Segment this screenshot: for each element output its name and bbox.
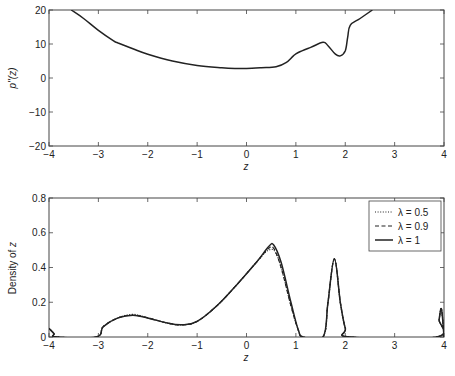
x-tick-label: 0 <box>244 340 250 351</box>
y-tick-label: 0 <box>40 332 46 343</box>
x-tick-label: 1 <box>293 340 299 351</box>
density-curve-solid <box>49 243 444 340</box>
x-tick-label: −1 <box>191 340 203 351</box>
bottom-plot: −4−3−2−101234 0.80.60.40.20 z Density of… <box>7 193 447 364</box>
x-tick-label: 4 <box>441 149 447 160</box>
x-tick-label: −3 <box>93 340 105 351</box>
legend: λ = 0.5λ = 0.9λ = 1 <box>369 201 441 251</box>
y-tick-label: 0.4 <box>32 262 46 273</box>
top-x-ticks: −4−3−2−101234 <box>43 10 447 160</box>
y-tick-label: −20 <box>29 141 46 152</box>
y-tick-label: 0.2 <box>32 297 46 308</box>
x-tick-label: 3 <box>392 340 398 351</box>
x-tick-label: −3 <box>93 149 105 160</box>
bottom-y-axis-label: Density of z <box>7 242 18 294</box>
x-tick-label: −1 <box>191 149 203 160</box>
bottom-y-axis-label-var: z <box>7 242 18 248</box>
bottom-y-axis-label-text: Density of <box>7 247 18 294</box>
top-curve <box>71 10 372 69</box>
top-series <box>71 10 372 69</box>
legend-label: λ = 1 <box>398 235 420 246</box>
density-curve-dotted <box>49 249 444 340</box>
x-tick-label: −2 <box>142 149 154 160</box>
figure: −4−3−2−101234 20100−10−20 z p''(z) −4−3−… <box>0 0 455 376</box>
density-curve-dashed <box>49 246 444 340</box>
x-tick-label: 2 <box>342 149 348 160</box>
top-y-ticks: 20100−10−20 <box>29 5 444 152</box>
y-tick-label: 10 <box>35 39 47 50</box>
legend-label: λ = 0.9 <box>398 221 429 232</box>
x-tick-label: 4 <box>441 340 447 351</box>
top-x-axis-label: z <box>243 161 249 172</box>
bottom-x-axis-label: z <box>243 352 249 363</box>
x-tick-label: −2 <box>142 340 154 351</box>
x-tick-label: 2 <box>342 340 348 351</box>
x-tick-label: 0 <box>244 149 250 160</box>
legend-label: λ = 0.5 <box>398 207 429 218</box>
x-tick-label: 1 <box>293 149 299 160</box>
y-tick-label: 0.6 <box>32 227 46 238</box>
x-tick-label: 3 <box>392 149 398 160</box>
y-tick-label: 0 <box>40 73 46 84</box>
y-tick-label: 0.8 <box>32 193 46 204</box>
bottom-series <box>49 243 444 340</box>
top-y-axis-label: p''(z) <box>7 67 18 89</box>
top-plot: −4−3−2−101234 20100−10−20 z p''(z) <box>7 5 447 173</box>
top-plot-frame <box>49 10 444 146</box>
y-tick-label: −10 <box>29 107 46 118</box>
y-tick-label: 20 <box>35 5 47 16</box>
